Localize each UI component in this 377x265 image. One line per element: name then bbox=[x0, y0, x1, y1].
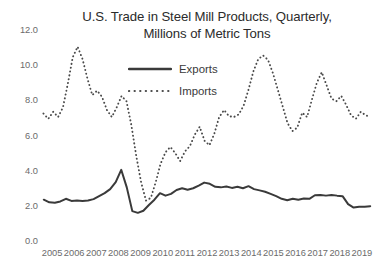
y-tick-label: 4.0 bbox=[2, 166, 38, 176]
imports-legend-swatch bbox=[128, 86, 172, 96]
x-axis: 2005200620072008200920102011201220132014… bbox=[41, 248, 373, 262]
x-tick-label: 2010 bbox=[152, 248, 173, 258]
y-tick-label: 8.0 bbox=[2, 95, 38, 105]
exports-series-line bbox=[44, 170, 370, 213]
legend-label-imports: Imports bbox=[179, 85, 217, 97]
x-tick-label: 2019 bbox=[352, 248, 373, 258]
y-tick-label: 0.0 bbox=[2, 236, 38, 246]
y-tick-label: 10.0 bbox=[2, 60, 38, 70]
y-tick-label: 12.0 bbox=[2, 25, 38, 35]
y-axis: 0.02.04.06.08.010.012.0 bbox=[0, 0, 38, 265]
exports-legend-swatch bbox=[128, 64, 172, 74]
x-tick-label: 2013 bbox=[219, 248, 240, 258]
chart-container: U.S. Trade in Steel Mill Products, Quart… bbox=[0, 0, 377, 265]
chart-legend: Exports Imports bbox=[128, 60, 252, 100]
legend-label-exports: Exports bbox=[179, 63, 218, 75]
x-tick-label: 2011 bbox=[175, 248, 195, 258]
x-tick-label: 2016 bbox=[285, 248, 306, 258]
x-tick-label: 2006 bbox=[64, 248, 85, 258]
x-tick-label: 2009 bbox=[130, 248, 151, 258]
x-tick-label: 2017 bbox=[307, 248, 328, 258]
x-tick-label: 2014 bbox=[241, 248, 262, 258]
legend-item-imports: Imports bbox=[128, 82, 217, 99]
chart-title-line-1: U.S. Trade in Steel Mill Products, Quart… bbox=[52, 8, 362, 25]
x-tick-label: 2018 bbox=[329, 248, 350, 258]
x-tick-label: 2005 bbox=[42, 248, 63, 258]
legend-item-exports: Exports bbox=[128, 60, 218, 77]
y-tick-label: 2.0 bbox=[2, 201, 38, 211]
x-tick-label: 2008 bbox=[108, 248, 129, 258]
y-tick-label: 6.0 bbox=[2, 131, 38, 141]
x-tick-label: 2015 bbox=[263, 248, 284, 258]
x-tick-label: 2007 bbox=[86, 248, 107, 258]
x-tick-label: 2012 bbox=[197, 248, 218, 258]
